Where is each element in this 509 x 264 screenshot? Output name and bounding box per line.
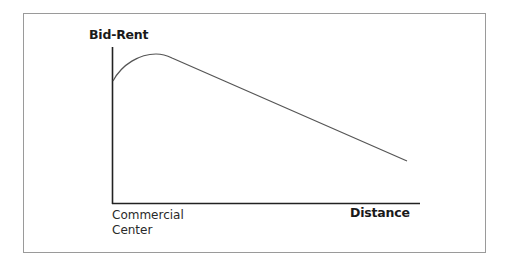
origin-label: Commercial Center <box>112 208 184 238</box>
origin-label-line2: Center <box>112 223 184 238</box>
y-axis-label: Bid-Rent <box>89 27 148 42</box>
bid-rent-curve <box>113 54 407 161</box>
bid-rent-diagram <box>0 0 509 264</box>
origin-label-line1: Commercial <box>112 208 184 223</box>
x-axis-label: Distance <box>350 205 410 220</box>
